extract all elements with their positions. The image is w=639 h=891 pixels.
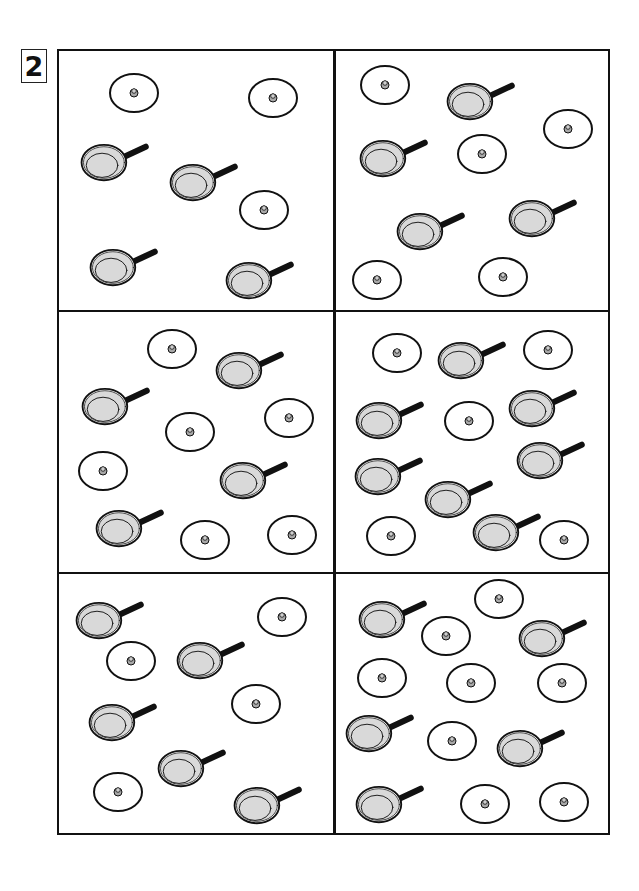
grid-cell-1[interactable] <box>59 51 335 312</box>
pot-lid-icon <box>539 782 589 822</box>
pot-lid-icon <box>478 257 528 297</box>
grid-cell-6[interactable] <box>335 574 611 835</box>
frying-pan-icon <box>217 461 293 501</box>
frying-pan-icon <box>231 786 307 826</box>
pot-lid-icon <box>165 412 215 452</box>
frying-pan-icon <box>223 261 299 301</box>
frying-pan-icon <box>73 601 149 641</box>
exercise-number-label: 2 <box>21 49 47 83</box>
pot-lid-icon <box>539 520 589 560</box>
frying-pan-icon <box>93 509 169 549</box>
pot-lid-icon <box>372 333 422 373</box>
pot-lid-icon <box>231 684 281 724</box>
frying-pan-icon <box>174 641 250 681</box>
pot-lid-icon <box>457 134 507 174</box>
pot-lid-icon <box>543 109 593 149</box>
frying-pan-icon <box>86 703 162 743</box>
grid-cell-2[interactable] <box>335 51 611 312</box>
pot-lid-icon <box>352 260 402 300</box>
pot-lid-icon <box>421 616 471 656</box>
grid-cell-3[interactable] <box>59 312 335 573</box>
frying-pan-icon <box>167 163 243 203</box>
pot-lid-icon <box>537 663 587 703</box>
pot-lid-icon <box>93 772 143 812</box>
pot-lid-icon <box>460 784 510 824</box>
frying-pan-icon <box>353 401 429 441</box>
grid-cell-4[interactable] <box>335 312 611 573</box>
frying-pan-icon <box>213 351 289 391</box>
pot-lid-icon <box>523 330 573 370</box>
grid-cell-5[interactable] <box>59 574 335 835</box>
frying-pan-icon <box>357 139 433 179</box>
frying-pan-icon <box>353 785 429 825</box>
frying-pan-icon <box>435 341 511 381</box>
pot-lid-icon <box>427 721 477 761</box>
frying-pan-icon <box>352 457 428 497</box>
frying-pan-icon <box>78 143 154 183</box>
counting-grid <box>57 49 610 835</box>
pot-lid-icon <box>106 641 156 681</box>
frying-pan-icon <box>155 749 231 789</box>
pot-lid-icon <box>147 329 197 369</box>
frying-pan-icon <box>394 212 470 252</box>
pot-lid-icon <box>180 520 230 560</box>
frying-pan-icon <box>514 441 590 481</box>
frying-pan-icon <box>506 389 582 429</box>
pot-lid-icon <box>264 398 314 438</box>
frying-pan-icon <box>87 248 163 288</box>
pot-lid-icon <box>109 73 159 113</box>
pot-lid-icon <box>267 515 317 555</box>
frying-pan-icon <box>516 619 592 659</box>
pot-lid-icon <box>248 78 298 118</box>
pot-lid-icon <box>239 190 289 230</box>
frying-pan-icon <box>79 387 155 427</box>
frying-pan-icon <box>494 729 570 769</box>
pot-lid-icon <box>446 663 496 703</box>
pot-lid-icon <box>444 401 494 441</box>
pot-lid-icon <box>257 597 307 637</box>
frying-pan-icon <box>506 199 582 239</box>
pot-lid-icon <box>474 579 524 619</box>
pot-lid-icon <box>360 65 410 105</box>
pot-lid-icon <box>78 451 128 491</box>
frying-pan-icon <box>343 714 419 754</box>
frying-pan-icon <box>470 513 546 553</box>
pot-lid-icon <box>366 516 416 556</box>
frying-pan-icon <box>444 82 520 122</box>
pot-lid-icon <box>357 658 407 698</box>
